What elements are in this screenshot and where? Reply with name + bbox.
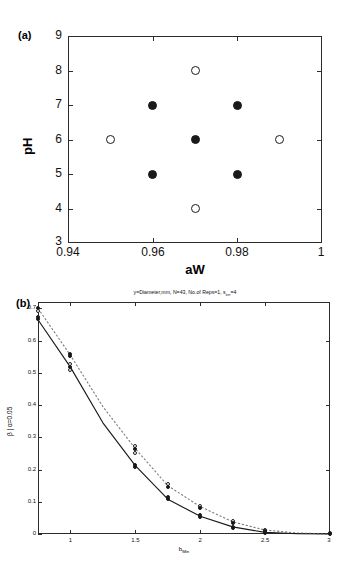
figure-root: (a) 9 8 7 6 5 4 3 0.94 0.96 0.98 1 bbox=[0, 0, 344, 579]
data-point-filled bbox=[148, 170, 157, 179]
panel-a-xtick-top-096 bbox=[153, 36, 154, 41]
scatter-point bbox=[166, 485, 170, 489]
data-point-open bbox=[191, 204, 200, 213]
panel-a-ytick-label-9: 9 bbox=[40, 28, 62, 42]
panel-a-xtick-098 bbox=[237, 238, 238, 243]
panel-a-xtick-label-098: 0.98 bbox=[213, 245, 261, 259]
data-point-open bbox=[106, 135, 115, 144]
panel-a-ylabel: pH bbox=[20, 138, 35, 155]
panel-a-ytick-6 bbox=[68, 140, 73, 141]
data-point-filled bbox=[233, 101, 242, 110]
panel-a-ytick-7 bbox=[68, 105, 73, 106]
panel-a-xtick-label-094: 0.94 bbox=[44, 245, 92, 259]
data-point-filled bbox=[148, 101, 157, 110]
upper-dotted-curve bbox=[38, 308, 330, 534]
panel-a-xtick-096 bbox=[153, 238, 154, 243]
panel-a-tag: (a) bbox=[18, 29, 31, 41]
panel-a-ytick-right-4 bbox=[317, 209, 322, 210]
panel-a-ytick-5 bbox=[68, 174, 73, 175]
data-point-filled bbox=[191, 135, 200, 144]
data-point-filled bbox=[233, 170, 242, 179]
lower-solid-curve bbox=[38, 320, 330, 534]
panel-a-ytick-4 bbox=[68, 209, 73, 210]
panel-b-curves bbox=[0, 288, 344, 579]
panel-a-ytick-label-4: 4 bbox=[40, 201, 62, 215]
panel-a-ytick-label-8: 8 bbox=[40, 63, 62, 77]
panel-a-ytick-right-8 bbox=[317, 71, 322, 72]
panel-a-ytick-label-7: 7 bbox=[40, 97, 62, 111]
panel-a: (a) 9 8 7 6 5 4 3 0.94 0.96 0.98 1 bbox=[0, 0, 344, 288]
panel-a-ytick-label-6: 6 bbox=[40, 132, 62, 146]
panel-a-ytick-3 bbox=[68, 242, 73, 243]
panel-a-xtick-label-1: 1 bbox=[306, 245, 336, 259]
scatter-point bbox=[36, 309, 40, 313]
panel-b: (b) y=Diameter,mm, N=43, No.of Reps=1, s… bbox=[0, 288, 344, 579]
panel-a-ytick-right-6 bbox=[317, 140, 322, 141]
panel-a-ytick-9 bbox=[68, 36, 73, 37]
panel-a-xtick-label-096: 0.96 bbox=[129, 245, 177, 259]
scatter-point bbox=[231, 526, 235, 530]
panel-a-xlabel: aW bbox=[145, 262, 245, 277]
panel-a-ytick-8 bbox=[68, 71, 73, 72]
data-point-open bbox=[191, 66, 200, 75]
panel-a-ytick-label-5: 5 bbox=[40, 166, 62, 180]
panel-a-xtick-top-098 bbox=[237, 36, 238, 41]
